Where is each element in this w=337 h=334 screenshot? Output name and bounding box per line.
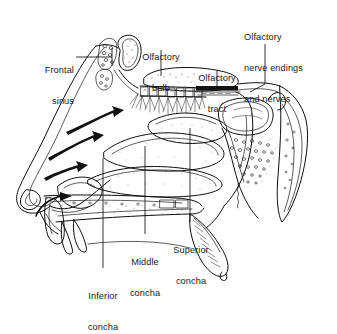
label-olfactory-tract-line1: Olfactory (184, 73, 250, 83)
label-olfactory-nerves-line2: nerve endings (244, 63, 336, 73)
label-olfactory-tract: Olfactory tract (184, 52, 250, 135)
label-olfactory-nerve-endings: Olfactory nerve endings and nerves (244, 11, 336, 125)
label-frontal-sinus-line1: Frontal (0, 65, 74, 75)
airflow-arrow-lower (44, 161, 88, 181)
cancellous-bone (222, 128, 276, 218)
label-inferior-concha-line2: concha (70, 322, 136, 332)
label-olfactory-nerves-line1: Olfactory (244, 32, 336, 42)
middle-concha-shelf (104, 133, 224, 171)
label-frontal-sinus: Frontal sinus (0, 44, 74, 127)
label-olfactory-nerves-line3: and nerves (244, 94, 336, 104)
label-superior-concha-line1: Superior (158, 245, 224, 255)
label-inferior-concha: Inferior concha (70, 270, 136, 334)
airflow-arrow-upper (66, 106, 124, 135)
airflow-arrow-middle (48, 131, 104, 161)
label-superior-concha-line2: concha (158, 276, 224, 286)
label-frontal-sinus-line2: sinus (0, 96, 74, 106)
label-inferior-concha-line1: Inferior (70, 291, 136, 301)
label-olfactory-tract-line2: tract (184, 104, 250, 114)
label-superior-concha: Superior concha (158, 224, 224, 307)
